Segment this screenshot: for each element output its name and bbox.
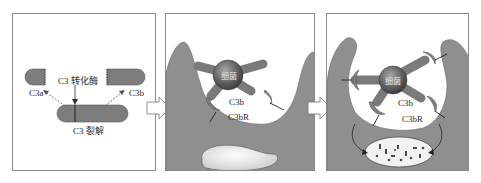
c3b-label: C3b — [229, 97, 244, 107]
panel-c3b-binding: 细菌 C3b C3bR — [165, 13, 315, 171]
panel-phagocytosis: 细菌 C3b C3bR — [326, 13, 469, 171]
c3b-binding-illustration — [166, 14, 315, 171]
c3b-receptor-label: C3bR — [402, 114, 423, 124]
c3a-fragment — [25, 69, 45, 85]
bacterium-label: 细菌 — [221, 70, 237, 81]
c3b-label: C3b — [398, 98, 413, 108]
bacterium-label: 细菌 — [385, 75, 401, 86]
digestion-vesicle — [365, 137, 433, 167]
phagocytosis-illustration — [327, 14, 469, 171]
c3b-label: C3b — [129, 88, 144, 98]
panel-c3-cleavage: C3 转化酶 C3a C3b C3 裂解 — [12, 13, 156, 171]
c3b-fragment — [107, 69, 145, 85]
c3b-receptor-label: C3bR — [228, 112, 249, 122]
c3-cleavage-label: C3 裂解 — [73, 124, 104, 137]
c3-molecule — [57, 105, 128, 122]
c3a-label: C3a — [29, 88, 44, 98]
c3-convertase-label: C3 转化酶 — [58, 74, 98, 87]
